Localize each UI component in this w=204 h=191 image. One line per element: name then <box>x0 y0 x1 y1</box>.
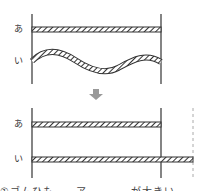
label-b-bottom: い <box>14 154 23 164</box>
bottom-string-a <box>32 122 161 127</box>
down-arrow-icon <box>89 89 103 100</box>
label-b-top: い <box>14 56 23 66</box>
diagram <box>0 0 204 191</box>
label-a-top: あ <box>14 24 23 34</box>
bottom-string-b <box>32 157 193 162</box>
top-string-a <box>32 27 161 32</box>
caption-text: ①ゴムひも ア が大きい <box>0 183 175 191</box>
label-a-bottom: あ <box>14 119 23 129</box>
